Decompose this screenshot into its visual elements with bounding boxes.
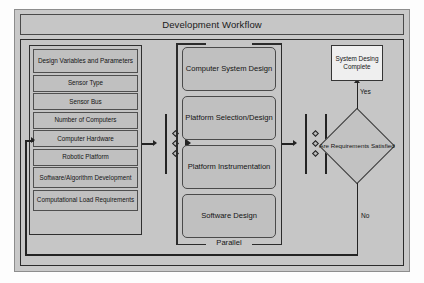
- input-item-label: Sensor Bus: [69, 98, 102, 106]
- sync-marker-diamond: [311, 140, 318, 147]
- connector-feedback-bottom: [25, 254, 358, 256]
- bracket-edge: [176, 43, 206, 45]
- connector-yes-branch: [357, 83, 359, 109]
- sync-marker-diamond: [311, 130, 318, 137]
- parallel-bracket-label-text: Parallel: [216, 238, 241, 247]
- parallel-bracket-label: Parallel: [176, 238, 282, 247]
- decision-label: Are Requirements Satisfied: [319, 108, 395, 184]
- diagram-title-banner: Development Workflow: [20, 14, 404, 35]
- sync-bar-line: [165, 114, 167, 174]
- input-item-label: Computational Load Requirements: [37, 196, 134, 204]
- design-variables-header: Design Variables and Parameters: [33, 49, 138, 73]
- input-item-robotic-platform[interactable]: Robotic Platform: [33, 149, 138, 166]
- parallel-task-platform-instrumentation[interactable]: Platform Instrumentation: [182, 145, 276, 189]
- input-item-label: Robotic Platform: [62, 153, 109, 161]
- edge-label-no: No: [361, 212, 369, 219]
- parallel-task-software-design[interactable]: Software Design: [182, 194, 276, 238]
- input-item-label: Number of Computers: [55, 116, 117, 124]
- parallel-task-label: Computer System Design: [186, 64, 273, 73]
- input-item-label: Sensor Type: [68, 79, 103, 87]
- sync-marker-diamond: [311, 150, 318, 157]
- design-variables-group: Design Variables and Parameters Sensor T…: [29, 45, 142, 235]
- edge-label-no-text: No: [361, 212, 369, 219]
- connector-no-branch-down: [357, 183, 359, 255]
- input-item-computational-load-requirements[interactable]: Computational Load Requirements: [33, 190, 138, 211]
- parallel-task-label: Software Design: [201, 211, 257, 220]
- edge-label-yes: Yes: [360, 88, 371, 95]
- arrowhead-into-fork: [153, 140, 157, 146]
- decision-label-text: Are Requirements Satisfied: [319, 142, 394, 150]
- bracket-edge: [176, 43, 178, 245]
- terminal-system-design-complete[interactable]: System Desing Complete: [331, 45, 383, 81]
- input-item-number-of-computers[interactable]: Number of Computers: [33, 112, 138, 129]
- input-item-sensor-type[interactable]: Sensor Type: [33, 75, 138, 92]
- input-item-sensor-bus[interactable]: Sensor Bus: [33, 93, 138, 110]
- arrowhead-into-join: [293, 140, 297, 146]
- sync-bar-line: [305, 114, 307, 174]
- arrowhead-into-inputs: [31, 137, 35, 143]
- parallel-task-platform-selection-design[interactable]: Platform Selection/Design: [182, 96, 276, 140]
- decision-requirements-satisfied[interactable]: Are Requirements Satisfied: [319, 108, 395, 184]
- terminal-label: System Desing Complete: [332, 55, 382, 72]
- input-item-software-algorithm-development[interactable]: Software/Algorithm Development: [33, 167, 138, 188]
- diagram-canvas: Development Workflow Design Variables an…: [0, 0, 424, 283]
- input-item-computer-hardware[interactable]: Computer Hardware: [33, 130, 138, 147]
- input-item-label: Computer Hardware: [57, 135, 114, 143]
- input-item-label: Software/Algorithm Development: [39, 174, 131, 182]
- diagram-title: Development Workflow: [162, 19, 262, 30]
- parallel-task-computer-system-design[interactable]: Computer System Design: [182, 47, 276, 91]
- parallel-task-label: Platform Selection/Design: [185, 113, 272, 122]
- edge-label-yes-text: Yes: [360, 88, 371, 95]
- parallel-task-label: Platform Instrumentation: [188, 162, 271, 171]
- design-variables-header-label: Design Variables and Parameters: [38, 57, 133, 65]
- connector-feedback-up: [25, 140, 27, 255]
- parallel-task-list: Computer System Design Platform Selectio…: [182, 47, 276, 241]
- bracket-edge: [252, 43, 282, 45]
